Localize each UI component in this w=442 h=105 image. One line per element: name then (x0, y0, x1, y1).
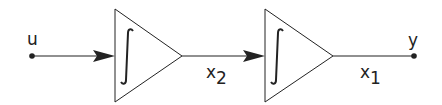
signal-x2: x2 (182, 50, 265, 88)
signal-x2-label: x2 (206, 62, 227, 88)
integral-icon (121, 29, 133, 83)
signal-x1-label: x1 (360, 62, 381, 88)
integrator-block-2 (265, 9, 333, 102)
integral-icon (271, 29, 283, 83)
signal-x1: x1 (333, 56, 414, 88)
output-dot (411, 53, 417, 59)
input-node: u (27, 29, 38, 59)
integrator-block-1 (115, 9, 182, 102)
block-diagram: u x2 x1 y (0, 0, 442, 105)
output-label: y (408, 30, 418, 50)
input-label: u (27, 29, 38, 49)
signal-u-arrow (32, 50, 115, 62)
output-node: y (408, 30, 418, 59)
